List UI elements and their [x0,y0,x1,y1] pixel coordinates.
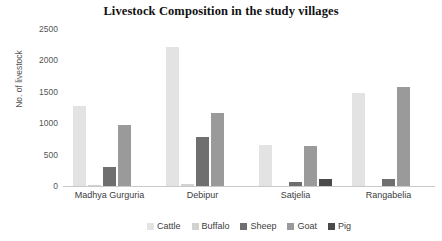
legend-label: Buffalo [202,221,230,231]
category-label: Debipur [156,190,249,200]
bar-cattle-satjelia[interactable] [259,145,272,186]
legend-swatch-icon [192,223,199,230]
bar-goat-rangabelia[interactable] [397,87,410,186]
livestock-composition-chart: Livestock Composition in the study villa… [0,0,442,241]
y-axis-tick-label: 1000 [18,118,58,128]
legend-item-buffalo[interactable]: Buffalo [192,221,230,231]
bar-group [63,29,156,186]
legend-swatch-icon [287,223,294,230]
bar-cattle-debipur[interactable] [166,47,179,186]
x-axis-line [63,186,435,187]
bar-goat-satjelia[interactable] [304,146,317,186]
y-axis-tick-label: 1500 [18,87,58,97]
bar-sheep-madhya-gurguria[interactable] [103,167,116,186]
bar-sheep-debipur[interactable] [196,137,209,186]
bar-goat-debipur[interactable] [211,113,224,186]
legend-label: Sheep [250,221,276,231]
legend-label: Goat [297,221,317,231]
bar-group [249,29,342,186]
legend-item-goat[interactable]: Goat [287,221,317,231]
legend-swatch-icon [147,223,154,230]
bar-cattle-rangabelia[interactable] [352,93,365,186]
chart-title: Livestock Composition in the study villa… [0,4,442,19]
bar-sheep-rangabelia[interactable] [382,179,395,186]
category-label: Madhya Gurguria [63,190,156,200]
y-axis-tick-label: 2000 [18,55,58,65]
y-axis-tick-label: 2500 [18,24,58,34]
category-label: Satjelia [249,190,342,200]
legend-swatch-icon [240,223,247,230]
y-axis-tick-label: 500 [18,150,58,160]
bar-pig-satjelia[interactable] [319,179,332,186]
chart-legend: CattleBuffaloSheepGoatPig [63,221,435,231]
legend-label: Cattle [157,221,181,231]
legend-swatch-icon [328,223,335,230]
legend-label: Pig [338,221,351,231]
legend-item-cattle[interactable]: Cattle [147,221,181,231]
legend-item-sheep[interactable]: Sheep [240,221,276,231]
plot-area: 05001000150020002500 [63,29,435,186]
bar-cattle-madhya-gurguria[interactable] [73,106,86,186]
category-label: Rangabelia [342,190,435,200]
x-axis-category-labels: Madhya GurguriaDebipurSatjeliaRangabelia [63,190,435,200]
bar-group [342,29,435,186]
bar-group [156,29,249,186]
bar-groups [63,29,435,186]
bar-goat-madhya-gurguria[interactable] [118,125,131,186]
legend-item-pig[interactable]: Pig [328,221,351,231]
y-axis-tick-label: 0 [18,181,58,191]
